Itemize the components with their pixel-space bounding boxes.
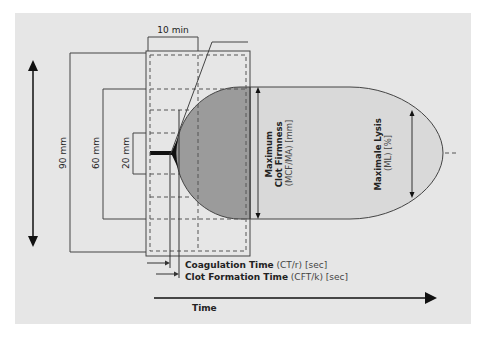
amplitude-arrow	[28, 60, 38, 247]
cft-label: Clot Formation Time (CFT/k) [sec]	[185, 272, 348, 282]
clot-curve-dark	[176, 87, 250, 219]
ct-label: Coagulation Time (CT/r) [sec]	[185, 260, 327, 270]
tem-diagram: 10 min 90 mm 60 mm 20 mm Coagulation Tim…	[0, 0, 484, 339]
ten-min-label: 10 min	[157, 25, 188, 35]
ct-arrow	[147, 261, 170, 266]
bracket-90mm	[70, 53, 146, 252]
cft-arrow	[156, 272, 179, 277]
ten-min-bracket	[148, 37, 198, 51]
label-20mm: 20 mm	[121, 137, 131, 169]
time-axis-label: Time	[192, 303, 217, 313]
label-60mm: 60 mm	[91, 137, 101, 169]
bracket-20mm	[133, 133, 146, 174]
label-90mm: 90 mm	[58, 137, 68, 169]
mcf-label: Maximum Clot Firmness (MCF/MA) [mm]	[264, 119, 294, 187]
